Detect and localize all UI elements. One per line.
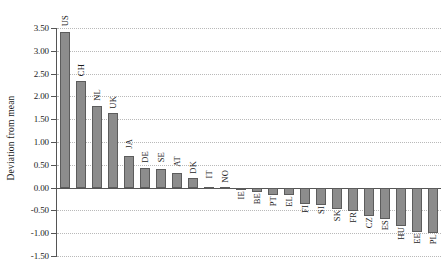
- bar-label-dk: DK: [189, 161, 198, 174]
- bar-label-no: NO: [221, 170, 230, 183]
- bar-de: [140, 168, 150, 187]
- y-tick-label: 3.50: [0, 23, 49, 33]
- bar-ee: [412, 188, 422, 232]
- bar-label-si: SI: [317, 206, 326, 214]
- bar-no: [220, 187, 230, 189]
- y-tick-label: 1.00: [0, 137, 49, 147]
- gridline: [57, 233, 441, 234]
- bar-fi: [300, 188, 310, 205]
- bar-label-se: SE: [157, 152, 166, 162]
- bar-cz: [364, 188, 374, 216]
- bar-label-cz: CZ: [365, 217, 374, 228]
- bar-it: [204, 187, 214, 189]
- bar-label-el: EL: [285, 196, 294, 207]
- bar-label-ja: JA: [125, 139, 134, 149]
- bar-label-pl: PL: [429, 234, 438, 244]
- bar-si: [316, 188, 326, 205]
- bar-label-es: ES: [381, 220, 390, 230]
- bar-uk: [108, 113, 118, 188]
- bar-be: [252, 188, 262, 192]
- bar-es: [380, 188, 390, 219]
- bar-ie: [236, 188, 246, 191]
- bar-el: [284, 188, 294, 196]
- bar-pt: [268, 188, 278, 195]
- y-tick-label: -0.50: [0, 205, 49, 215]
- y-tick-label: 2.50: [0, 69, 49, 79]
- bar-hu: [396, 188, 406, 226]
- bar-label-fr: FR: [349, 212, 358, 223]
- bar-pl: [428, 188, 438, 233]
- bar-label-ie: IE: [237, 191, 246, 199]
- bar-se: [156, 169, 166, 187]
- bar-ch: [76, 81, 86, 187]
- y-tick-label: 2.00: [0, 91, 49, 101]
- bar-sk: [332, 188, 342, 209]
- bar-label-nl: NL: [93, 89, 102, 101]
- bar-label-ch: CH: [77, 64, 86, 76]
- y-tick-label: 0.50: [0, 160, 49, 170]
- bar-label-sk: SK: [333, 210, 342, 221]
- bar-label-fi: FI: [301, 205, 310, 213]
- plot-area: USCHNLUKJADESEATDKITNOIEBEPTELFISISKFRCZ…: [57, 28, 441, 256]
- y-tick-label: 0.00: [0, 183, 49, 193]
- y-tick-label: -1.50: [0, 251, 49, 261]
- bar-label-hu: HU: [397, 227, 406, 240]
- bar-label-us: US: [61, 15, 70, 26]
- y-tick-label: -1.00: [0, 228, 49, 238]
- bar-nl: [92, 106, 102, 188]
- bar-label-be: BE: [253, 193, 262, 204]
- bar-label-at: AT: [173, 156, 182, 167]
- bar-dk: [188, 178, 198, 187]
- bar-label-it: IT: [205, 170, 214, 178]
- y-tick-label: 3.00: [0, 46, 49, 56]
- bar-label-uk: UK: [109, 96, 118, 109]
- bar-label-de: DE: [141, 151, 150, 163]
- bar-us: [60, 32, 70, 188]
- bar-at: [172, 173, 182, 188]
- gridline: [57, 74, 441, 75]
- y-tick-label: 1.50: [0, 114, 49, 124]
- bar-label-ee: EE: [413, 233, 422, 244]
- bar-chart: Deviation from mean 3.503.002.502.001.50…: [0, 0, 444, 276]
- bar-label-pt: PT: [269, 196, 278, 206]
- gridline: [57, 256, 441, 257]
- gridline: [57, 28, 441, 29]
- bar-fr: [348, 188, 358, 212]
- gridline: [57, 51, 441, 52]
- bar-ja: [124, 156, 134, 188]
